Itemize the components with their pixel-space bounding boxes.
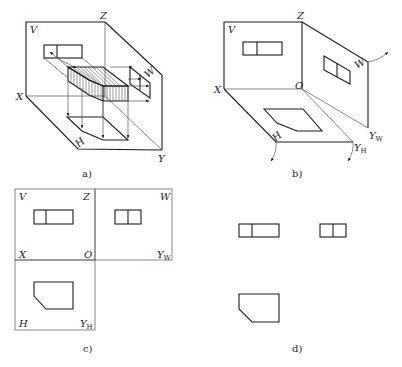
caption-d: d) bbox=[292, 343, 302, 354]
yh-axis-b bbox=[302, 89, 353, 142]
top-view-a bbox=[67, 117, 128, 140]
panel-c: V Z W X O YW H YH c) bbox=[15, 189, 172, 354]
label-v: V bbox=[30, 24, 39, 35]
label-yh-b: YH bbox=[354, 142, 367, 155]
label-yw-b: YW bbox=[369, 130, 384, 143]
label-h-c: H bbox=[18, 318, 28, 329]
rotation-arrow-h-right bbox=[348, 142, 353, 161]
top-view-d bbox=[239, 294, 279, 322]
label-v-b: V bbox=[228, 24, 237, 35]
y-axis bbox=[105, 96, 162, 150]
rotation-arrow-w bbox=[368, 52, 388, 62]
label-x-c: X bbox=[18, 249, 27, 260]
caption-b: b) bbox=[292, 168, 302, 179]
caption-a: a) bbox=[82, 168, 92, 179]
label-yh-c: YH bbox=[80, 318, 93, 331]
front-view-a bbox=[44, 45, 82, 58]
label-v-c: V bbox=[19, 191, 28, 202]
label-w: W bbox=[142, 64, 157, 79]
yw-axis-b bbox=[302, 89, 368, 128]
caption-c: c) bbox=[83, 343, 93, 354]
label-h: H bbox=[72, 135, 87, 150]
label-x-b: X bbox=[213, 84, 222, 95]
three-view-projection-figure: V Z W X H Y a) V Z W X O H YW bbox=[0, 0, 402, 367]
front-view-b bbox=[243, 42, 282, 55]
top-view-b bbox=[264, 109, 322, 131]
label-w-b: W bbox=[352, 56, 367, 71]
label-z-b: Z bbox=[296, 10, 305, 21]
front-view-c bbox=[34, 210, 73, 224]
top-view-c bbox=[34, 282, 73, 309]
label-x: X bbox=[15, 91, 24, 102]
label-o-c: O bbox=[84, 249, 92, 260]
v-plane-frame bbox=[26, 22, 105, 96]
label-z: Z bbox=[99, 10, 108, 21]
panel-a: V Z W X H Y a) bbox=[15, 10, 166, 179]
label-w-c: W bbox=[160, 191, 171, 202]
label-y: Y bbox=[158, 153, 166, 164]
label-o-b: O bbox=[295, 80, 303, 91]
panel-d: d) bbox=[239, 224, 346, 354]
h-plane-frame-b bbox=[224, 89, 353, 142]
projection-rays bbox=[44, 52, 149, 138]
h-plane-frame bbox=[26, 96, 162, 150]
label-z-c: Z bbox=[82, 191, 91, 202]
w-plane-frame-b bbox=[302, 22, 368, 128]
panel-b: V Z W X O H YW YH b) bbox=[213, 10, 388, 179]
front-view-d bbox=[239, 224, 279, 237]
rotation-arrow-h-left bbox=[271, 142, 276, 161]
